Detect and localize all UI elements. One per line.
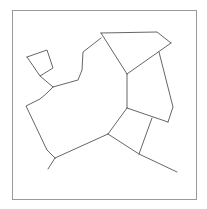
graph-edges xyxy=(26,32,177,172)
graph-edge xyxy=(101,32,171,43)
graph-edge xyxy=(159,52,173,122)
graph-edge xyxy=(26,87,55,158)
graph-diagram xyxy=(0,0,207,209)
graph-edge xyxy=(127,43,171,74)
graph-edge xyxy=(108,108,127,134)
graph-edge xyxy=(127,108,168,122)
graph-edge xyxy=(55,134,108,158)
graph-edge xyxy=(139,118,152,154)
graph-edge xyxy=(27,50,53,76)
graph-edge xyxy=(101,33,127,74)
graph-edge xyxy=(48,158,55,169)
graph-edge xyxy=(108,134,177,172)
graph-edge xyxy=(40,76,53,87)
graph-edge xyxy=(53,38,101,87)
